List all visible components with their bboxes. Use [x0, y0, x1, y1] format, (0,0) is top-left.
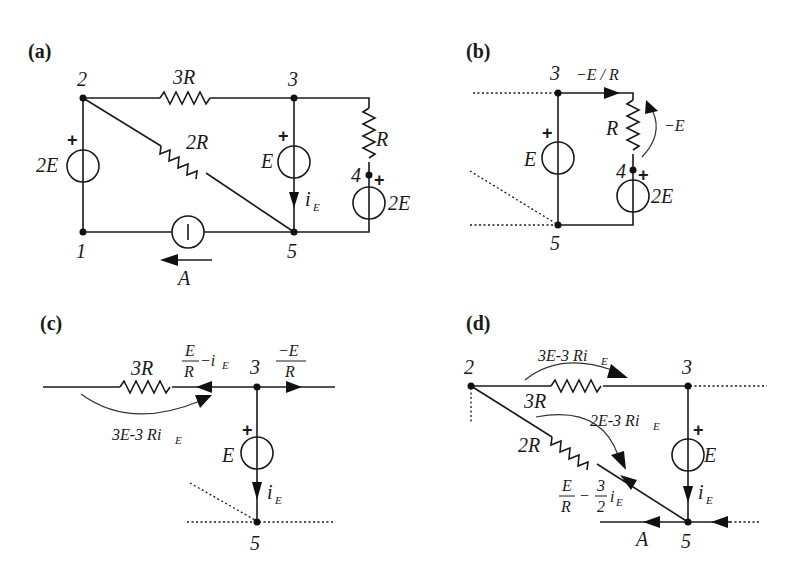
- node-2: [468, 383, 475, 390]
- voltage-arc: [642, 112, 656, 157]
- svg-text:3: 3: [596, 477, 605, 494]
- label-node-3: 3: [249, 356, 260, 378]
- resistor-3R: [551, 380, 601, 392]
- label-iE: i: [305, 188, 311, 210]
- plus-E: +: [542, 123, 553, 143]
- label-E-over-R-minus-3-halves-iE: E R − 3 2 i E: [559, 477, 623, 515]
- label-node-4: 4: [351, 164, 361, 186]
- plus-2E-left: +: [67, 130, 78, 150]
- node-5: [685, 519, 692, 526]
- node-1: [80, 229, 87, 236]
- svg-text:E: E: [561, 477, 572, 494]
- arrow-left-icon-right: [711, 516, 728, 528]
- label-3R: 3R: [172, 66, 195, 88]
- label-node-5: 5: [550, 232, 560, 254]
- arrow-down-icon: [683, 486, 693, 503]
- voltage-arc: [81, 394, 200, 414]
- svg-text:E: E: [652, 420, 660, 432]
- svg-text:i: i: [610, 488, 614, 505]
- svg-text:E: E: [274, 494, 282, 506]
- svg-text:E: E: [174, 434, 182, 446]
- svg-text:E: E: [221, 359, 229, 371]
- plus-E: +: [242, 420, 253, 440]
- panel-c: (c) 3 5 3R E R −i E −E R 3E-3 Ri E E + i: [40, 312, 335, 554]
- label-node-4: 4: [616, 160, 626, 182]
- label-minus-E-over-R: −E: [278, 342, 299, 359]
- label-iE: i: [698, 481, 704, 503]
- node-2: [80, 95, 87, 102]
- svg-text:R: R: [560, 498, 571, 515]
- plus-2E: +: [638, 165, 649, 185]
- arrow-down-icon: [252, 482, 262, 500]
- node-5: [291, 229, 298, 236]
- label-node-1: 1: [76, 240, 86, 262]
- voltage-arc-3R: [525, 363, 612, 380]
- wire-2-2R: [83, 98, 161, 146]
- node-3: [685, 383, 692, 390]
- panel-a-label: (a): [28, 40, 51, 63]
- label-E: E: [221, 444, 234, 466]
- svg-text:E: E: [600, 355, 608, 367]
- resistor-R: [363, 108, 375, 158]
- label-2E-right: 2E: [388, 192, 410, 214]
- label-A: A: [176, 267, 191, 289]
- label-E-over-R-minus-iE: −i: [200, 352, 215, 369]
- label-3R: 3R: [130, 357, 153, 379]
- node-3: [291, 95, 298, 102]
- panel-b-label: (b): [466, 40, 490, 63]
- wire-3-R: [558, 93, 633, 100]
- label-3E-3RiE: 3E-3 Ri: [537, 347, 587, 364]
- label-E: E: [703, 444, 716, 466]
- node-4: [630, 167, 637, 174]
- node-5: [254, 519, 261, 526]
- label-2R: 2R: [186, 131, 208, 153]
- panel-a: (a) 2 3: [28, 40, 410, 289]
- resistor-2R: [551, 437, 588, 470]
- plus-2E-right: +: [374, 170, 385, 190]
- label-E: E: [523, 148, 536, 170]
- label-2E: 2E: [651, 185, 673, 207]
- resistor-3R: [120, 381, 170, 393]
- svg-text:E: E: [184, 342, 195, 359]
- arrow-right-icon: [604, 87, 620, 99]
- label-3R: 3R: [523, 390, 546, 412]
- svg-text:2: 2: [597, 498, 605, 515]
- panel-b: (b) 3 5 4 −E / R R −E E 2E + +: [466, 40, 685, 254]
- svg-text:R: R: [284, 363, 295, 380]
- wire-2-3b: [210, 98, 369, 108]
- node-3: [555, 90, 562, 97]
- label-node-2: 2: [77, 68, 87, 90]
- arc-arrowhead-icon: [195, 395, 212, 408]
- svg-text:−: −: [579, 487, 590, 504]
- node-5: [555, 222, 562, 229]
- label-2E-3RiE: 2E-3 Ri: [590, 412, 639, 429]
- arrow-up-icon: [645, 100, 658, 114]
- panel-c-label: (c): [40, 312, 62, 335]
- arrow-down-icon: [289, 192, 299, 208]
- circuit-figure: (a) 2 3: [0, 0, 797, 562]
- label-iE: i: [267, 481, 273, 503]
- label-current-minus-E-over-R: −E / R: [576, 66, 619, 83]
- resistor-3R: [160, 92, 210, 104]
- label-minus-E: −E: [664, 117, 685, 134]
- label-R: R: [375, 128, 388, 150]
- node-4: [366, 172, 373, 179]
- arrow-right-icon: [286, 381, 302, 393]
- panel-d-label: (d): [466, 312, 490, 335]
- plus-E: +: [278, 126, 289, 146]
- label-A: A: [634, 528, 649, 550]
- label-node-3: 3: [549, 62, 560, 84]
- label-node-3: 3: [287, 68, 298, 90]
- label-3E-3RiE: 3E-3 Ri: [111, 426, 161, 443]
- label-node-2: 2: [464, 356, 474, 378]
- label-R: R: [605, 117, 618, 139]
- svg-text:E: E: [615, 496, 623, 508]
- label-node-5: 5: [681, 530, 691, 552]
- label-node-5: 5: [250, 532, 260, 554]
- wire-2R-5: [206, 173, 294, 232]
- svg-text:R: R: [183, 363, 194, 380]
- arc-arrowhead-icon-2: [611, 451, 626, 470]
- arc-arrowhead-icon: [607, 364, 628, 378]
- label-node-3: 3: [681, 356, 692, 378]
- label-2E-left: 2E: [36, 154, 58, 176]
